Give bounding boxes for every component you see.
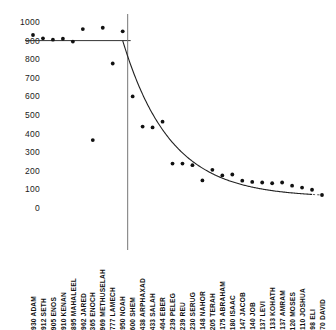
- x-tick-label: 950 NOAH: [119, 296, 126, 330]
- x-tick-label: 133 KOHATH: [269, 287, 276, 330]
- data-point: [230, 173, 234, 177]
- data-point: [270, 181, 274, 185]
- data-point: [191, 163, 195, 167]
- x-axis-tick-labels: 930 ADAM912 SETH905 ENOS910 KENAN895 MAH…: [0, 224, 336, 330]
- data-point: [260, 181, 264, 185]
- fitted-decay-curve: [123, 41, 322, 195]
- x-tick-label: 777 LAMECH: [109, 287, 116, 330]
- chart-canvas: 1000 900 800 700 600 500 400 300 200 100…: [0, 0, 336, 330]
- data-point: [71, 40, 75, 44]
- data-point: [201, 179, 205, 183]
- x-tick-label: 239 REU: [179, 302, 186, 330]
- x-tick-label: 147 JACOB: [239, 292, 246, 330]
- data-point: [81, 27, 85, 31]
- x-tick-label: 137 AMRAM: [279, 290, 286, 330]
- x-tick-label: 205 TERAH: [209, 293, 216, 330]
- x-tick-label: 180 ISAAC: [229, 295, 236, 330]
- x-tick-label: 905 ENOS: [50, 297, 57, 330]
- data-point: [280, 181, 284, 185]
- data-point: [320, 193, 324, 197]
- x-tick-label: 98 ELI: [309, 309, 316, 330]
- data-point: [51, 38, 55, 42]
- x-tick-label: 912 SETH: [40, 298, 47, 330]
- x-tick-label: 137 LEVI: [259, 301, 266, 330]
- x-tick-label: 148 NAHOR: [199, 291, 206, 330]
- data-point: [91, 138, 95, 142]
- x-tick-label: 230 SERUG: [189, 292, 196, 330]
- x-tick-label: 600 SHEM: [129, 297, 136, 330]
- data-point: [171, 162, 175, 166]
- data-point: [310, 188, 314, 192]
- data-point: [111, 62, 115, 66]
- x-tick-label: 120 MOSES: [289, 292, 296, 330]
- data-point: [210, 168, 214, 172]
- data-point: [161, 120, 165, 124]
- data-point: [220, 174, 224, 178]
- data-point: [61, 37, 65, 41]
- x-tick-label: 433 SALAH: [149, 293, 156, 330]
- x-tick-label: 239 PELEG: [169, 293, 176, 330]
- x-tick-label: 930 ADAM: [30, 296, 37, 330]
- data-point: [240, 179, 244, 183]
- x-tick-label: 969 METHUSELAH: [99, 269, 106, 330]
- x-tick-label: 110 JOSHUA: [299, 288, 306, 330]
- data-point: [300, 186, 304, 190]
- x-tick-label: 365 ENOCH: [89, 292, 96, 330]
- x-tick-label: 140 JOB: [249, 302, 256, 330]
- x-tick-label: 70 DAVID: [319, 299, 326, 330]
- reference-lines: [25, 14, 131, 250]
- data-point-group: [31, 26, 324, 197]
- x-tick-label: 464 EBER: [159, 297, 166, 330]
- data-point: [250, 180, 254, 184]
- data-point: [131, 95, 135, 99]
- x-tick-label: 175 ABRAHAM: [219, 281, 226, 330]
- x-tick-label: 895 MAHALEEL: [70, 278, 77, 330]
- data-point: [121, 29, 125, 33]
- x-tick-label: 910 KENAN: [60, 292, 67, 330]
- data-point: [290, 184, 294, 188]
- data-point: [41, 36, 45, 40]
- data-point: [141, 125, 145, 129]
- data-point: [101, 26, 105, 30]
- x-tick-label: 438 ARPHAXAD: [139, 278, 146, 330]
- data-point: [181, 162, 185, 166]
- decay-curve-solid: [123, 41, 312, 195]
- data-point: [151, 126, 155, 130]
- x-tick-label: 962 JARED: [80, 293, 87, 330]
- data-point: [31, 33, 35, 37]
